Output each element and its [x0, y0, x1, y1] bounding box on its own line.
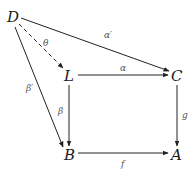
label-f: f	[120, 159, 126, 169]
node-l: L	[63, 67, 74, 85]
node-a: A	[169, 146, 182, 164]
node-d: D	[6, 8, 19, 26]
label-beta: β	[57, 106, 63, 116]
edge-beta-prime-d-to-b	[15, 27, 63, 147]
label-alpha-prime: α′	[104, 30, 112, 40]
node-c: C	[171, 67, 183, 85]
label-g: g	[182, 110, 188, 120]
commutative-diagram: θ α′ β′ α β g f D L C B A	[0, 0, 196, 172]
label-alpha: α	[120, 63, 126, 73]
label-theta: θ	[43, 38, 49, 48]
label-beta-prime: β′	[25, 83, 33, 93]
node-b: B	[63, 146, 75, 164]
